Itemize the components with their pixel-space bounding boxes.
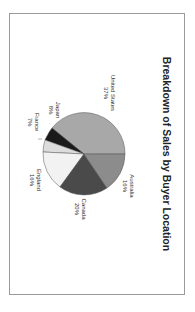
label-canada: Canada 20% [73, 198, 87, 219]
pie-chart [0, 0, 195, 312]
label-england: England 16% [28, 169, 42, 191]
label-united-states: United States 37% [102, 75, 116, 111]
label-japan: Japan 8% [47, 102, 61, 118]
label-france: France 7% [26, 113, 40, 132]
label-australia: Australia 16% [121, 174, 135, 197]
